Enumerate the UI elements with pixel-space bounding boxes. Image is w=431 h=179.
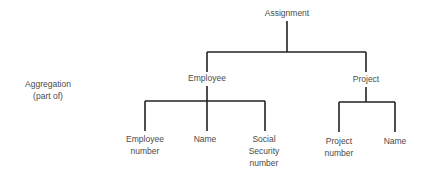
- node-ssn-l1: Social: [252, 133, 275, 145]
- node-employee-name: Name: [194, 133, 217, 145]
- side-label-line2: (part of): [33, 90, 63, 102]
- node-project: Project: [353, 73, 379, 85]
- side-label-line1: Aggregation: [25, 78, 71, 90]
- node-employee: Employee: [188, 72, 226, 84]
- node-ssn-l3: number: [250, 157, 279, 169]
- node-project-name: Name: [384, 135, 407, 147]
- node-assignment: Assignment: [265, 7, 309, 19]
- node-project-number-l2: number: [325, 147, 354, 159]
- node-ssn-l2: Security: [249, 145, 280, 157]
- node-employee-number-l1: Employee: [126, 133, 164, 145]
- node-employee-number-l2: number: [131, 145, 160, 157]
- node-project-number-l1: Project: [326, 135, 352, 147]
